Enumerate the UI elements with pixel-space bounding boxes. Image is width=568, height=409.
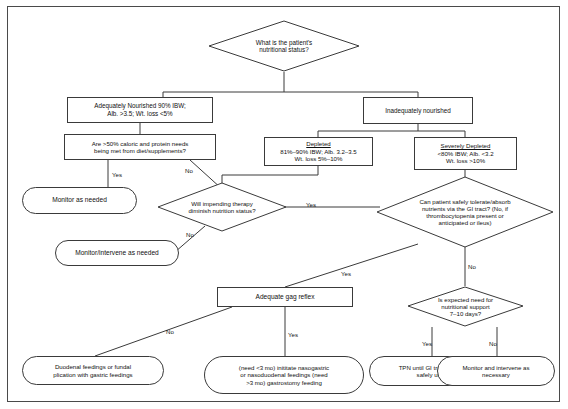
edge-label-gag-no: No: [166, 328, 174, 335]
node-duodenal-feedings: Duodenal feedings or fundal plication wi…: [22, 356, 164, 385]
text-line: Is expected need for: [438, 296, 493, 303]
text-line: nutritional status?: [256, 46, 313, 53]
text-line: diminish nutrition status?: [188, 207, 255, 214]
text-line: Will impending therapy: [188, 200, 255, 207]
flowchart-page: What is the patient's nutritional status…: [0, 0, 568, 409]
text-line: <80% IBW; Alb. <3.2: [437, 150, 493, 157]
edge-label-caloric-no: No: [185, 167, 193, 174]
edge-label-expected-no: No: [489, 340, 497, 347]
text-line: plication with gastric feedings: [53, 371, 132, 378]
node-depleted: Depleted 81%–90% IBW; Alb. 3.2–3.5 Wt. l…: [264, 137, 373, 166]
text-line: Can patient safely tolerate/absorb: [419, 198, 510, 205]
edge-label-caloric-yes: Yes: [112, 171, 122, 178]
text-line: Duodenal feedings or fundal: [53, 363, 132, 370]
text-line: Inadequately nourished: [385, 107, 450, 115]
text-line: Adequately Nourished 90% IBW;: [94, 102, 186, 110]
node-monitor-intervene-necessary: Monitor and intervene as necessary: [437, 356, 555, 386]
text-line: Monitor as needed: [52, 196, 107, 204]
text-line: Monitor and intervene as: [462, 364, 529, 371]
node-severely-depleted: Severely Depleted <80% IBW; Alb. <3.2 Wt…: [414, 137, 517, 170]
node-monitor-as-needed: Monitor as needed: [22, 187, 137, 214]
text-line: anticipated or ileus): [419, 219, 510, 226]
node-nasogastric-feedings: (need <3 mo) inititate nasogastric or na…: [204, 356, 364, 394]
text-line: Wt. loss 5%–10%: [280, 155, 356, 162]
node-adequately-nourished: Adequately Nourished 90% IBW; Alb. >3.5;…: [67, 97, 213, 123]
text-line: 7–10 days?: [438, 310, 493, 317]
text-line: What is the patient's: [256, 39, 313, 46]
node-heading: Depleted: [280, 140, 356, 147]
text-line: or nasoduodenal feedings (need: [239, 371, 329, 378]
text-line: (need <3 mo) inititate nasogastric: [239, 364, 329, 371]
text-line: Wt. loss >10%: [437, 157, 493, 164]
text-line: thrombocytopenia present or: [419, 212, 510, 219]
node-inadequately-nourished: Inadequately nourished: [363, 97, 473, 124]
node-label: What is the patient's nutritional status…: [208, 20, 360, 72]
node-caloric-needs-question: Are >50% caloric and protein needs being…: [64, 134, 216, 160]
text-line: Are >50% caloric and protein needs: [92, 140, 189, 147]
text-line: nutrients via the GI tract? (No, if: [419, 205, 510, 212]
text-line: necessary: [462, 371, 529, 378]
edge-label-gi-no: No: [468, 263, 476, 270]
node-monitor-intervene-as-needed: Monitor/intervene as needed: [55, 240, 179, 266]
text-line: 81%–90% IBW; Alb. 3.2–3.5: [280, 148, 356, 155]
node-impending-therapy-question: Will impending therapy diminish nutritio…: [157, 182, 287, 232]
text-line: Alb. >3.5; Wt. loss <5%: [94, 110, 186, 118]
edge-label-therapy-no: No: [186, 231, 194, 238]
edge-label-gag-yes: Yes: [288, 331, 298, 338]
node-nutritional-status-question: What is the patient's nutritional status…: [208, 20, 360, 72]
text-line: Monitor/intervene as needed: [75, 249, 159, 257]
text-line: >3 mo) gastrostomy feeding: [239, 379, 329, 386]
node-heading: Severely Depleted: [437, 142, 493, 149]
text-line: nutritional support: [438, 303, 493, 310]
node-gi-tract-question: Can patient safely tolerate/absorb nutri…: [376, 176, 554, 248]
edge-label-therapy-yes: Yes: [306, 201, 316, 208]
text-line: Adequate gag reflex: [255, 293, 314, 301]
text-line: being met from diet/supplements?: [92, 147, 189, 154]
node-label: Will impending therapy diminish nutritio…: [157, 182, 287, 232]
node-label: Is expected need for nutritional support…: [407, 286, 524, 327]
node-expected-need-question: Is expected need for nutritional support…: [407, 286, 524, 327]
edge-label-expected-yes: Yes: [422, 340, 432, 347]
edge-label-gi-yes: Yes: [341, 270, 351, 277]
node-label: Can patient safely tolerate/absorb nutri…: [376, 176, 554, 248]
node-adequate-gag-reflex: Adequate gag reflex: [217, 287, 353, 307]
